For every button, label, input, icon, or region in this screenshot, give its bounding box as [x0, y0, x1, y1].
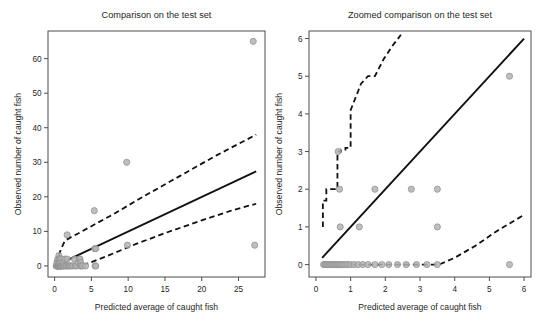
data-point: [506, 73, 512, 79]
ci-upper-band: [56, 135, 256, 264]
data-point: [335, 148, 341, 154]
ci-upper-band: [323, 35, 401, 227]
data-layer: [320, 35, 524, 268]
data-layer: [53, 38, 258, 269]
ci-lower-band: [323, 215, 524, 265]
data-point: [356, 224, 362, 230]
y-tick-label: 0: [37, 262, 42, 271]
data-point: [372, 186, 378, 192]
x-tick-label: 5: [89, 285, 94, 294]
data-point: [434, 186, 440, 192]
figure-container: Comparison on the test set05101520250102…: [0, 0, 547, 326]
x-tick-label: 6: [522, 285, 527, 294]
y-tick-label: 20: [32, 193, 42, 202]
y-tick-label: 60: [32, 55, 42, 64]
data-point: [434, 261, 440, 267]
data-point: [250, 38, 256, 44]
y-tick-label: 4: [298, 110, 303, 119]
x-tick-label: 1: [348, 285, 353, 294]
data-point: [91, 208, 97, 214]
data-point: [403, 261, 409, 267]
data-point: [394, 261, 400, 267]
y-tick-label: 30: [32, 158, 42, 167]
plot-title: Zoomed comparison on the test set: [348, 10, 492, 20]
x-tick-label: 10: [124, 285, 134, 294]
data-point: [124, 242, 130, 248]
data-point: [252, 242, 258, 248]
data-point: [64, 256, 70, 262]
y-tick-label: 0: [298, 261, 303, 270]
data-point: [413, 261, 419, 267]
data-point: [82, 263, 88, 269]
x-tick-label: 0: [314, 285, 319, 294]
y-tick-label: 6: [298, 35, 303, 44]
y-tick-label: 2: [298, 185, 303, 194]
data-point: [506, 261, 512, 267]
data-point: [365, 261, 371, 267]
data-point: [93, 246, 99, 252]
data-point: [386, 261, 392, 267]
y-tick-label: 50: [32, 89, 42, 98]
data-point: [379, 261, 385, 267]
plot-title: Comparison on the test set: [102, 10, 212, 20]
left-plot-svg: Comparison on the test set05101520250102…: [0, 0, 274, 326]
x-tick-label: 3: [418, 285, 423, 294]
y-axis-label: Observed number of caught fish: [274, 93, 284, 216]
x-axis-label: Predicted average of caught fish: [358, 302, 481, 312]
panel-right-zoomed-comparison: Zoomed comparison on the test set0123456…: [273, 0, 547, 326]
x-tick-label: 5: [487, 285, 492, 294]
x-tick-label: 25: [234, 285, 244, 294]
data-point: [64, 232, 70, 238]
data-point: [336, 186, 342, 192]
x-tick-label: 4: [452, 285, 457, 294]
fit-line: [322, 39, 524, 258]
plot-frame: [48, 31, 265, 277]
x-tick-label: 20: [197, 285, 207, 294]
data-point: [408, 186, 414, 192]
y-axis-label: Observed number of caught fish: [13, 93, 23, 216]
data-point: [337, 224, 343, 230]
data-point: [372, 261, 378, 267]
y-tick-label: 5: [298, 72, 303, 81]
x-axis-label: Predicted average of caught fish: [95, 302, 218, 312]
x-tick-label: 0: [52, 285, 57, 294]
x-tick-label: 2: [383, 285, 388, 294]
fit-line: [56, 171, 256, 265]
data-point: [424, 261, 430, 267]
y-tick-label: 40: [32, 124, 42, 133]
ci-lower-band: [56, 204, 256, 266]
x-tick-label: 15: [160, 285, 170, 294]
y-tick-label: 10: [32, 227, 42, 236]
data-point: [124, 159, 130, 165]
y-tick-label: 1: [298, 223, 303, 232]
panel-left-comparison: Comparison on the test set05101520250102…: [0, 0, 274, 326]
data-point: [434, 224, 440, 230]
y-tick-label: 3: [298, 148, 303, 157]
right-plot-svg: Zoomed comparison on the test set0123456…: [273, 0, 547, 326]
data-point: [93, 263, 99, 269]
